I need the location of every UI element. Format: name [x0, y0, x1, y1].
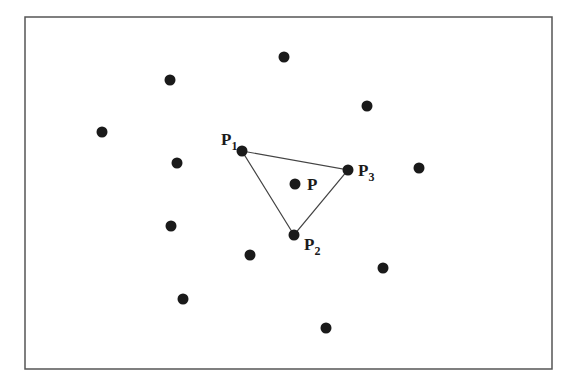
point-p2: [289, 230, 300, 241]
label-p2: P2: [304, 235, 320, 258]
label-p1: P1: [221, 130, 237, 153]
point: [165, 75, 176, 86]
point-triangle-diagram: P1P2P3P: [0, 0, 572, 387]
point-p1: [237, 146, 248, 157]
point: [279, 52, 290, 63]
scattered-points: [97, 52, 425, 334]
diagram-frame: [25, 17, 552, 369]
point: [414, 163, 425, 174]
point: [166, 221, 177, 232]
point: [97, 127, 108, 138]
point: [245, 250, 256, 261]
point: [321, 323, 332, 334]
label-p: P: [307, 175, 317, 194]
point: [178, 294, 189, 305]
point: [378, 263, 389, 274]
label-p3: P3: [358, 161, 374, 184]
triangle-p1-p2-p3: [242, 151, 348, 235]
point: [172, 158, 183, 169]
labeled-points: P1P2P3P: [221, 130, 374, 258]
point-p: [290, 179, 301, 190]
point: [362, 101, 373, 112]
point-p3: [343, 165, 354, 176]
